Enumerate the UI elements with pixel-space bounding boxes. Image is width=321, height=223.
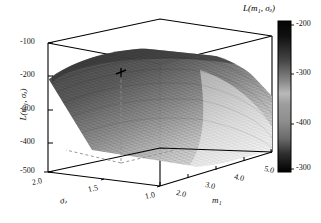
plot-canvas — [0, 0, 321, 223]
colorbar-tick-label: -300 — [296, 164, 311, 172]
z-axis-ticks — [48, 43, 53, 172]
likelihood-surface — [48, 48, 272, 168]
colorbar — [278, 21, 294, 172]
x-axis-label: m₁ — [212, 196, 222, 205]
figure-3d-surface-plot: L(m₁, σₔ) -100 -200 -300 -400 -500 2.0 1… — [0, 0, 321, 223]
colorbar-title: L(m₁, σₔ) — [243, 3, 275, 13]
z-tick-label: -200 — [20, 71, 35, 79]
colorbar-tick-label: -300 — [296, 69, 311, 77]
z-tick-label: -100 — [20, 38, 35, 46]
colorbar-tick-label: -400 — [296, 119, 311, 127]
y-axis-label: σₔ — [59, 195, 68, 205]
z-tick-label: -400 — [20, 138, 35, 146]
z-tick-label: -300 — [20, 105, 35, 113]
colorbar-tick-label: -200 — [296, 20, 311, 28]
z-tick-label: -500 — [20, 167, 35, 175]
